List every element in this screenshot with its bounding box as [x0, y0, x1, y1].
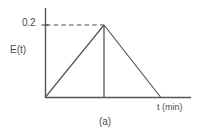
x-axis-label: t (min) — [157, 103, 183, 112]
figure-caption: (a) — [0, 117, 210, 127]
y-axis-tick-label-0.2: 0.2 — [22, 18, 35, 28]
y-axis-label: E(t) — [10, 45, 26, 55]
curve-rising-limb — [46, 25, 105, 97]
curve-falling-limb — [104, 25, 161, 97]
figure-panel: 0.2 E(t) t (min) (a) — [0, 0, 210, 140]
